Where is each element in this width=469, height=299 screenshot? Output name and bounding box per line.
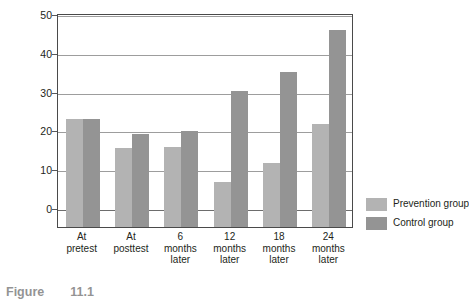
bar-prevention [263, 163, 281, 227]
y-tick-mark [52, 170, 57, 171]
legend-label: Control group [393, 218, 454, 228]
x-tick-label-line: later [254, 254, 303, 266]
bar-prevention [214, 182, 232, 227]
x-tick-label: 18monthslater [254, 231, 303, 266]
legend-swatch [366, 217, 387, 230]
x-tick-label-line: 6 [156, 231, 205, 243]
x-tick-label-line: pretest [57, 243, 106, 255]
bar-control [231, 91, 248, 227]
bar-prevention [115, 148, 133, 227]
y-tick-label: 20 [30, 126, 52, 137]
bar-group [206, 15, 255, 227]
x-tick-label: 6monthslater [156, 231, 205, 266]
bar-group [305, 15, 353, 227]
y-tick-label: 30 [30, 87, 52, 98]
bar-control [83, 119, 100, 227]
y-tick-mark [52, 54, 57, 55]
bar-prevention [66, 119, 84, 227]
bar-control [329, 30, 346, 227]
bar-control [280, 72, 297, 227]
x-tick-label-line: months [156, 243, 205, 255]
legend-item: Control group [366, 216, 460, 230]
x-tick-label: Atpretest [57, 231, 106, 254]
x-tick-label-line: 12 [205, 231, 254, 243]
y-axis-tick-labels: 01020304050 [27, 0, 52, 296]
x-tick-label: 12monthslater [205, 231, 254, 266]
y-tick-label: 40 [30, 49, 52, 60]
caption-number: 11.1 [70, 285, 94, 299]
x-tick-label-line: later [304, 254, 353, 266]
y-tick-mark [52, 209, 57, 210]
bar-group [255, 15, 304, 227]
y-tick-mark [52, 131, 57, 132]
bar-prevention [312, 124, 330, 227]
figure-caption: Figure11.1 [6, 285, 94, 299]
bar-group [107, 15, 156, 227]
x-tick-label-line: 18 [254, 231, 303, 243]
chart-legend: Prevention groupControl group [366, 197, 460, 235]
caption-prefix: Figure [6, 285, 44, 299]
legend-item: Prevention group [366, 197, 460, 211]
y-tick-label: 0 [30, 204, 52, 215]
legend-label: Prevention group [393, 199, 469, 209]
bar-control [132, 134, 149, 227]
x-tick-label-line: months [205, 243, 254, 255]
x-tick-label-line: later [156, 254, 205, 266]
x-tick-label-line: later [205, 254, 254, 266]
x-tick-label-line: At [57, 231, 106, 243]
x-tick-label: Atposttest [106, 231, 155, 254]
x-tick-label: 24monthslater [304, 231, 353, 266]
x-tick-label-line: At [106, 231, 155, 243]
x-tick-label-line: months [304, 243, 353, 255]
bar-group [157, 15, 206, 227]
y-tick-mark [52, 93, 57, 94]
y-tick-label: 10 [30, 165, 52, 176]
x-tick-label-line: months [254, 243, 303, 255]
bar-control [181, 131, 198, 227]
x-tick-label-line: posttest [106, 243, 155, 255]
bar-group [58, 15, 107, 227]
y-tick-mark [52, 15, 57, 16]
plot-area [57, 14, 353, 228]
y-tick-label: 50 [30, 10, 52, 21]
x-tick-label-line: 24 [304, 231, 353, 243]
bar-prevention [164, 147, 182, 227]
legend-swatch [366, 198, 387, 211]
y-axis-title: Percentage scoring moderate to severe le… [0, 14, 30, 228]
